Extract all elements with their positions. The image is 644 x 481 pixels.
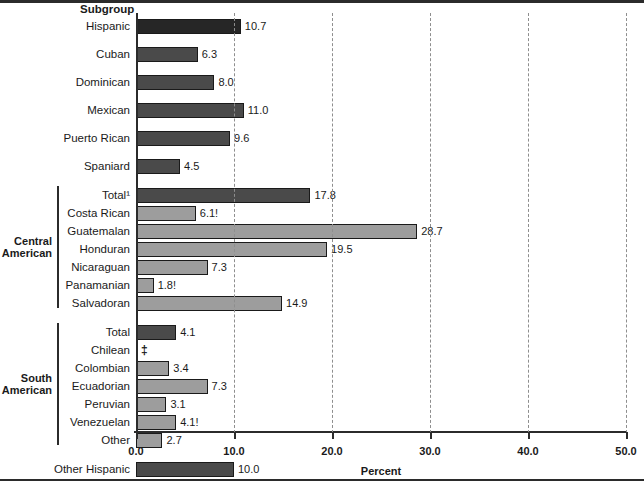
x-axis-title: Percent <box>136 465 626 477</box>
x-tick-30.0 <box>430 432 432 439</box>
category-label: Nicaraguan <box>0 260 130 275</box>
x-tick-0.0 <box>136 432 138 439</box>
category-label: Salvadoran <box>0 296 130 311</box>
category-label: Total¹ <box>0 188 130 203</box>
group-label-line2: American <box>0 247 52 259</box>
category-label: Other <box>0 433 130 448</box>
gridline-40.0 <box>528 13 529 433</box>
x-tick-40.0 <box>528 432 530 439</box>
x-tick-label: 0.0 <box>128 445 143 457</box>
subgroup-column-title: Subgroup <box>80 3 134 15</box>
category-label: Total <box>0 325 130 340</box>
gridline-20.0 <box>332 13 333 433</box>
category-label: Puerto Rican <box>0 131 130 146</box>
x-tick-label: 40.0 <box>517 445 538 457</box>
group-label: CentralAmerican <box>0 235 52 259</box>
category-label: Dominican <box>0 75 130 90</box>
group-bracket <box>57 186 59 308</box>
category-label: Other Hispanic <box>0 462 130 477</box>
x-tick-label: 50.0 <box>615 445 636 457</box>
category-label: Cuban <box>0 47 130 62</box>
category-label: Venezuelan <box>0 415 130 430</box>
group-label-line1: South <box>0 372 52 384</box>
x-tick-label: 20.0 <box>321 445 342 457</box>
group-label-line1: Central <box>0 235 52 247</box>
category-label: Spaniard <box>0 159 130 174</box>
x-tick-50.0 <box>626 432 628 439</box>
group-label-line2: American <box>0 384 52 396</box>
group-bracket <box>57 323 59 445</box>
gridline-10.0 <box>234 13 235 433</box>
plot-area: 0.010.020.030.040.050.0 <box>136 13 626 445</box>
category-label: Hispanic <box>0 19 130 34</box>
x-tick-20.0 <box>332 432 334 439</box>
x-tick-label: 10.0 <box>223 445 244 457</box>
x-tick-label: 30.0 <box>419 445 440 457</box>
category-label: Chilean <box>0 343 130 358</box>
x-axis-line <box>134 431 626 433</box>
category-label: Peruvian <box>0 397 130 412</box>
gridline-30.0 <box>430 13 431 433</box>
chart-figure: Subgroup Hispanic10.7Cuban6.3Dominican8.… <box>0 0 644 481</box>
group-label: SouthAmerican <box>0 372 52 396</box>
category-label: Costa Rican <box>0 206 130 221</box>
category-label: Mexican <box>0 103 130 118</box>
category-label: Panamanian <box>0 278 130 293</box>
y-axis-line <box>136 13 138 433</box>
gridline-50.0 <box>626 13 627 433</box>
x-tick-10.0 <box>234 432 236 439</box>
